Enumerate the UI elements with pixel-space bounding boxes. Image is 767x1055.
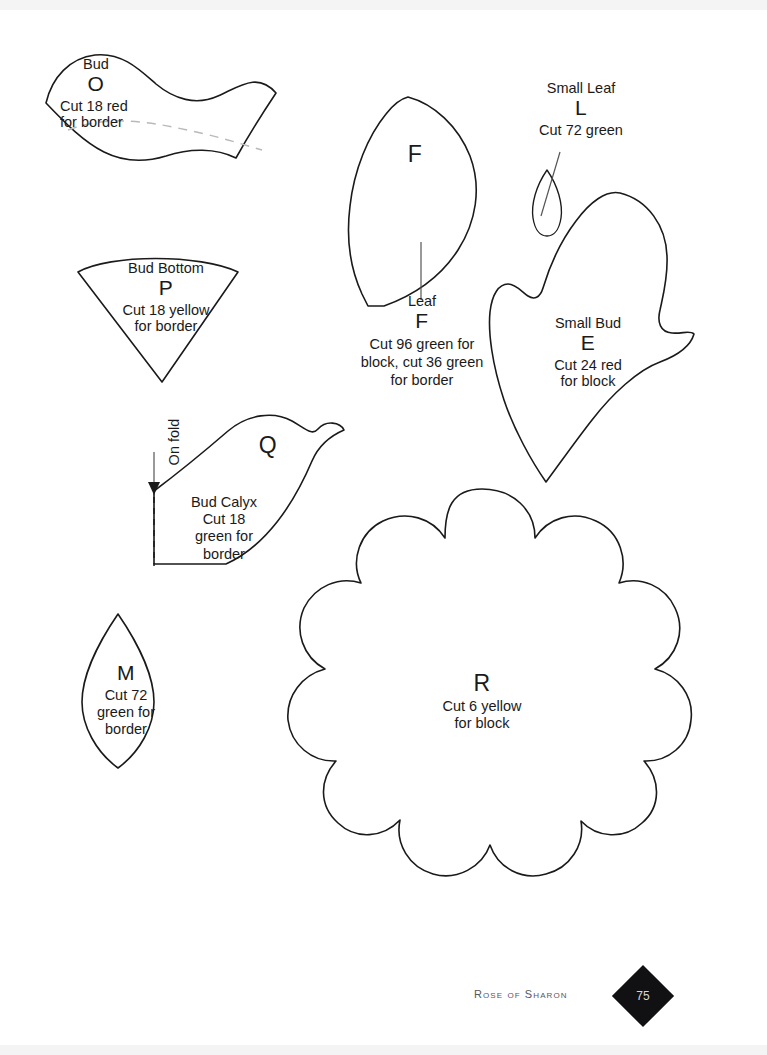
piece-f-name: Leaf (358, 293, 486, 310)
piece-o-letter: O (60, 72, 132, 97)
label-piece-p: Bud Bottom P Cut 18 yellow for border (84, 260, 248, 335)
pattern-page: Bud O Cut 18 red for border Bud Bottom P… (0, 0, 767, 1055)
piece-f-cut: Cut 96 green for block, cut 36 green for… (358, 335, 486, 390)
piece-o-cut-line-1: Cut 18 red (60, 98, 190, 115)
piece-r-letter: R (414, 670, 550, 697)
piece-m-cut-line-1: Cut 72 (78, 687, 174, 704)
piece-q-cut-line-2: green for (168, 528, 280, 545)
piece-m-cut-line-3: border (78, 721, 174, 738)
piece-f-letter-inside: F (395, 141, 435, 168)
piece-o-cut-line-2: for border (60, 114, 190, 131)
piece-f-letter: F (358, 309, 486, 334)
piece-e-cut-line-1: Cut 24 red (521, 357, 655, 374)
footer-pattern-title: Rose of Sharon (474, 988, 568, 1000)
shape-outline-f (349, 97, 477, 306)
piece-e-letter: E (521, 331, 655, 356)
piece-m-cut-line-2: green for (78, 704, 174, 721)
page-number: 75 (621, 974, 665, 1018)
piece-p-letter: P (84, 276, 248, 301)
shape-outline-l (533, 170, 562, 236)
piece-r-cut-line-1: Cut 6 yellow (414, 698, 550, 715)
piece-p-cut-line-1: Cut 18 yellow (84, 302, 248, 319)
piece-e-name: Small Bud (521, 315, 655, 332)
piece-l-name: Small Leaf (516, 80, 646, 97)
piece-l-letter: L (516, 96, 646, 121)
piece-q-cut-line-1: Cut 18 (168, 511, 280, 528)
piece-p-cut-line-2: for border (84, 318, 248, 335)
piece-e-cut-line-2: for block (521, 373, 655, 390)
label-piece-o: Bud O Cut 18 red for border (60, 56, 190, 131)
pattern-shapes-layer (0, 0, 767, 1055)
piece-q-name: Bud Calyx (168, 494, 280, 511)
label-piece-m: M Cut 72 green for border (78, 662, 174, 739)
label-piece-r: R Cut 6 yellow for block (414, 671, 550, 732)
label-piece-q-letter: Q (248, 433, 288, 460)
piece-o-name: Bud (60, 56, 132, 73)
piece-r-cut-line-2: for block (414, 715, 550, 732)
piece-q-letter: Q (248, 432, 288, 459)
piece-p-name: Bud Bottom (84, 260, 248, 277)
label-piece-e: Small Bud E Cut 24 red for block (521, 315, 655, 390)
label-piece-f: Leaf F Cut 96 green for block, cut 36 gr… (358, 293, 486, 390)
label-piece-q: Bud Calyx Cut 18 green for border (168, 494, 280, 563)
piece-q-cut-line-3: border (168, 546, 280, 563)
label-piece-f-inside: F (395, 142, 435, 169)
piece-m-letter: M (78, 661, 174, 686)
label-piece-l: Small Leaf L Cut 72 green (516, 80, 646, 138)
piece-l-cut: Cut 72 green (516, 122, 646, 139)
on-fold-label: On fold (166, 394, 186, 490)
